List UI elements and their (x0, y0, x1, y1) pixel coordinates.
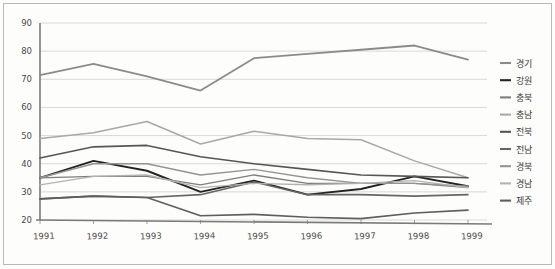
legend-label-경북: 경북 (516, 161, 532, 172)
x-tick-label: 1998 (407, 230, 429, 241)
x-axis (36, 220, 492, 224)
y-tick-label: 50 (21, 131, 32, 141)
x-axis-tick-labels: 199119921993199419951996199719981999 (33, 230, 483, 241)
data-series-group (40, 46, 468, 219)
x-tick-label: 1997 (354, 230, 376, 241)
y-tick-label: 30 (21, 187, 32, 197)
legend-label-제주: 제주 (516, 196, 532, 206)
y-tick-label: 90 (21, 18, 32, 28)
line-chart: 2030405060708090 19911992199319941995199… (0, 0, 555, 269)
y-tick-label: 80 (21, 46, 32, 56)
legend-label-충북: 충북 (516, 93, 532, 103)
y-tick-label: 70 (21, 74, 32, 84)
x-tick-label: 1999 (461, 230, 483, 241)
chart-page: 2030405060708090 19911992199319941995199… (0, 0, 555, 269)
series-line-제주 (40, 196, 468, 219)
legend-label-전북: 전북 (516, 127, 532, 137)
x-tick-label: 1994 (193, 230, 215, 241)
y-axis-tick-labels: 2030405060708090 (21, 18, 32, 225)
series-line-강원 (40, 161, 468, 195)
legend-label-전남: 전남 (516, 145, 532, 155)
y-tick-label: 20 (21, 215, 32, 225)
legend: 경기강원충북충남전북전남경북경남제주 (500, 58, 532, 207)
y-tick-label: 60 (21, 102, 32, 112)
legend-label-경기: 경기 (516, 58, 532, 69)
x-tick-label: 1996 (300, 230, 322, 241)
x-tick-label: 1995 (247, 230, 269, 241)
x-tick-label: 1991 (33, 230, 55, 241)
legend-label-충남: 충남 (516, 110, 532, 120)
legend-label-강원: 강원 (516, 76, 532, 86)
axes (36, 23, 492, 224)
legend-label-경남: 경남 (516, 178, 532, 189)
y-tick-label: 40 (21, 159, 32, 169)
series-line-전북 (40, 145, 468, 177)
grid-lines (40, 23, 487, 220)
x-tick-label: 1992 (86, 230, 108, 241)
x-tick-label: 1993 (140, 230, 162, 241)
chart-canvas: 2030405060708090 19911992199319941995199… (0, 0, 555, 269)
series-line-경기 (40, 46, 468, 91)
